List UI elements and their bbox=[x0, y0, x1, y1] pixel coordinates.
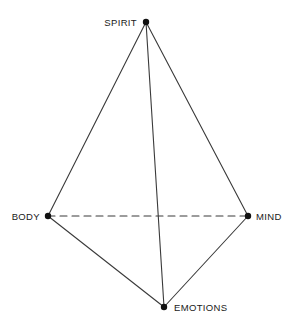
tetrahedron-diagram: SPIRITBODYMINDEMOTIONS bbox=[0, 0, 295, 328]
vertex-label-emotions: EMOTIONS bbox=[174, 303, 227, 313]
vertices-group bbox=[45, 19, 251, 310]
vertex-label-spirit: SPIRIT bbox=[104, 18, 137, 28]
edge-spirit-mind bbox=[146, 22, 248, 216]
edge-body-emotions bbox=[48, 216, 164, 307]
edge-spirit-body bbox=[48, 22, 146, 216]
vertex-dot-body bbox=[45, 213, 51, 219]
vertex-dot-mind bbox=[245, 213, 251, 219]
vertex-label-body: BODY bbox=[12, 212, 40, 222]
edges-group bbox=[48, 22, 248, 307]
vertex-dot-spirit bbox=[143, 19, 149, 25]
vertex-label-mind: MIND bbox=[256, 212, 282, 222]
tetrahedron-svg bbox=[0, 0, 295, 328]
vertex-dot-emotions bbox=[161, 304, 167, 310]
edge-spirit-emotions bbox=[146, 22, 164, 307]
edge-mind-emotions bbox=[164, 216, 248, 307]
